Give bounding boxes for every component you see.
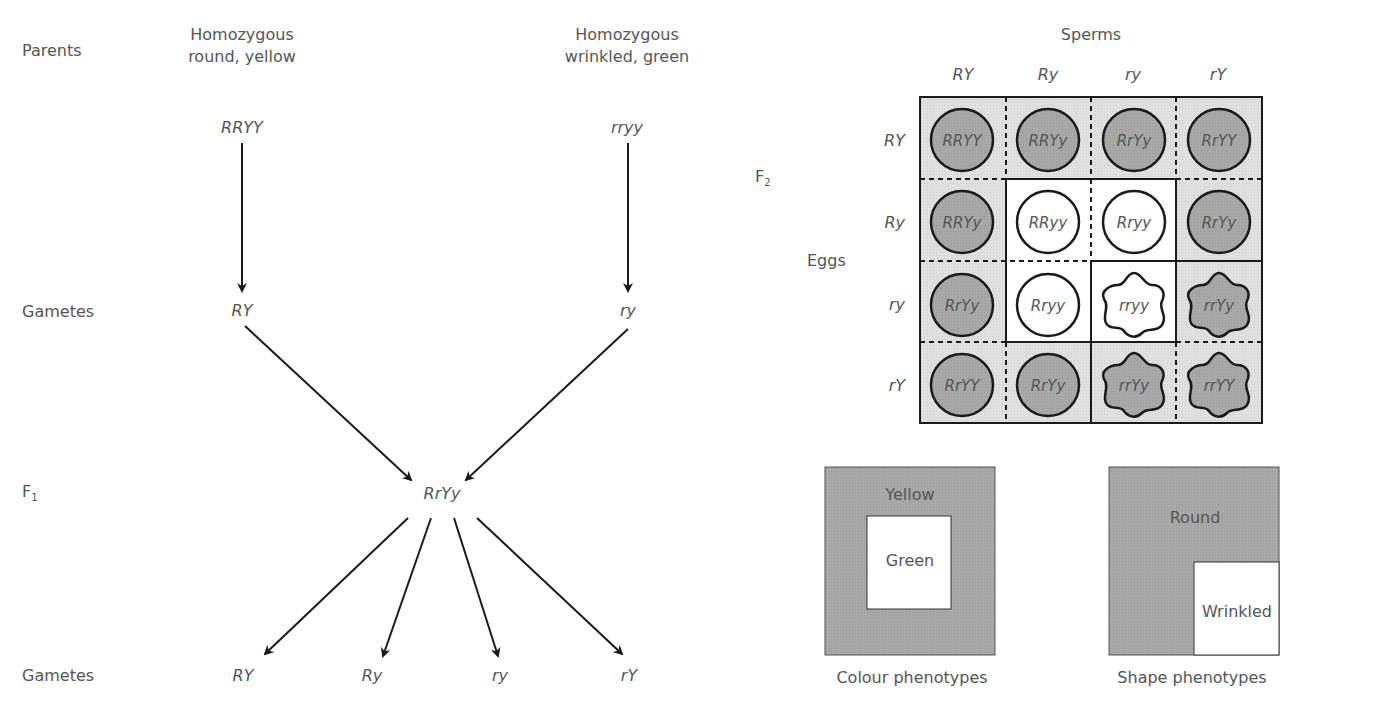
punnett-cell: RRYy	[1029, 132, 1069, 150]
row-label-f1: F1	[22, 482, 38, 503]
shape-phenotype-legend: Round Wrinkled Shape phenotypes	[1109, 467, 1279, 687]
punnett-cell: RRyy	[1029, 214, 1069, 232]
sperm-gamete: ry	[1125, 65, 1142, 84]
row-label-gametes-2: Gametes	[22, 666, 94, 685]
f1-genotype: RrYy	[424, 484, 461, 503]
punnett-cell: rrYy	[1119, 377, 1150, 395]
parent-right-genotype: rryy	[611, 118, 644, 137]
parent-left-desc-1: Homozygous	[190, 25, 293, 44]
punnett-cell: RrYY	[945, 377, 982, 395]
punnett-cell: RRYy	[943, 214, 983, 232]
legend-yellow: Yellow	[884, 485, 934, 504]
dihybrid-cross-diagram: Parents Homozygous round, yellow Homozyg…	[0, 0, 1381, 715]
punnett-cell: Rryy	[1031, 297, 1066, 315]
punnett-cell: RrYY	[1202, 132, 1239, 150]
parent-right-desc-2: wrinkled, green	[565, 47, 689, 66]
egg-gamete: Ry	[884, 213, 905, 232]
gamete-right: ry	[620, 301, 637, 320]
punnett-cell: RrYy	[1202, 214, 1238, 232]
punnett-cell: RrYy	[1117, 132, 1153, 150]
punnett-cell: RRYY	[942, 132, 983, 150]
arrow-f1-gamete-1	[265, 518, 408, 654]
f1-gamete: Ry	[362, 666, 383, 685]
egg-gamete: RY	[884, 131, 906, 150]
punnett-cell: RrYy	[945, 297, 981, 315]
arrow-to-f1-right	[466, 329, 628, 480]
parent-right-desc-1: Homozygous	[575, 25, 678, 44]
f1-gamete: rY	[621, 666, 639, 685]
sperm-gamete: Ry	[1038, 65, 1059, 84]
f1-gamete: RY	[233, 666, 255, 685]
sperms-label: Sperms	[1061, 25, 1121, 44]
eggs-label: Eggs	[807, 251, 846, 270]
parent-left-genotype: RRYY	[221, 118, 264, 137]
egg-gamete: rY	[889, 376, 907, 395]
row-label-gametes-1: Gametes	[22, 302, 94, 321]
egg-gamete: ry	[889, 295, 906, 314]
colour-phenotype-legend: Yellow Green Colour phenotypes	[825, 467, 995, 687]
arrow-f1-gamete-3	[454, 518, 498, 656]
gamete-left: RY	[232, 301, 254, 320]
punnett-cell: rrYy	[1204, 297, 1235, 315]
punnett-square: RRYY RRYy RrYy RrYY RRYy RRyy Rryy RrYy …	[920, 97, 1262, 423]
punnett-cell: rryy	[1119, 297, 1150, 315]
punnett-cell: Rryy	[1117, 214, 1152, 232]
f1-gamete: ry	[492, 666, 509, 685]
arrow-to-f1-left	[245, 326, 411, 480]
sperm-gamete: rY	[1210, 65, 1228, 84]
arrow-f1-gamete-4	[477, 518, 622, 654]
row-label-parents: Parents	[22, 41, 82, 60]
f2-label: F2	[755, 167, 771, 188]
legend-green: Green	[886, 551, 934, 570]
legend-round: Round	[1170, 508, 1221, 527]
punnett-cell: RrYy	[1031, 377, 1067, 395]
sperm-gamete: RY	[953, 65, 975, 84]
punnett-cell: rrYY	[1204, 377, 1236, 395]
arrow-f1-gamete-2	[383, 518, 431, 656]
parent-left-desc-2: round, yellow	[188, 47, 296, 66]
legend-wrinkled: Wrinkled	[1202, 602, 1272, 621]
legend-colour-caption: Colour phenotypes	[836, 668, 987, 687]
legend-shape-caption: Shape phenotypes	[1117, 668, 1266, 687]
